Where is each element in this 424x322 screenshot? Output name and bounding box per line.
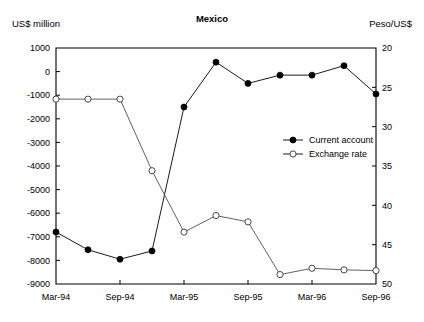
data-point	[373, 268, 379, 274]
legend-label-0: Current account	[309, 135, 374, 145]
left-tick-label: 1000	[30, 43, 50, 53]
chart-svg: US$ million Peso/US$ Mexico 10000-1000-2…	[0, 0, 424, 322]
left-tick-label: 0	[45, 67, 50, 77]
data-point	[373, 91, 379, 97]
left-tick-label: -2000	[27, 114, 50, 124]
left-tick-label: -6000	[27, 208, 50, 218]
x-tick-label: Sep-95	[233, 292, 262, 302]
data-point	[213, 212, 219, 218]
data-point	[181, 229, 187, 235]
chart-legend: Current accountExchange rate	[283, 135, 374, 159]
data-point	[53, 96, 59, 102]
left-tick-label: -7000	[27, 232, 50, 242]
x-tick-label: Sep-94	[105, 292, 134, 302]
left-tick-label: -5000	[27, 185, 50, 195]
legend-marker-1	[290, 151, 296, 157]
data-point	[149, 248, 155, 254]
right-tick-label: 50	[382, 279, 392, 289]
data-point	[245, 219, 251, 225]
x-axis-ticks: Mar-94Sep-94Mar-95Sep-95Mar-96Sep-96	[42, 280, 391, 302]
chart-title: Mexico	[196, 13, 228, 24]
data-point	[341, 63, 347, 69]
right-tick-label: 35	[382, 161, 392, 171]
series-layer	[53, 59, 379, 278]
series-line-0	[56, 62, 376, 259]
legend-marker-0	[290, 137, 296, 143]
x-tick-label: Mar-95	[170, 292, 199, 302]
data-point	[149, 168, 155, 174]
data-point	[245, 80, 251, 86]
right-tick-label: 20	[382, 43, 392, 53]
legend-label-1: Exchange rate	[309, 149, 367, 159]
data-point	[277, 72, 283, 78]
right-tick-label: 45	[382, 240, 392, 250]
chart-container: US$ million Peso/US$ Mexico 10000-1000-2…	[0, 0, 424, 322]
data-point	[277, 271, 283, 277]
left-axis-ticks: 10000-1000-2000-3000-4000-5000-6000-7000…	[27, 43, 60, 289]
right-axis-ticks: 20253035404550	[372, 43, 392, 289]
x-tick-label: Mar-96	[298, 292, 327, 302]
data-point	[341, 267, 347, 273]
left-tick-label: -3000	[27, 138, 50, 148]
data-point	[85, 247, 91, 253]
right-axis-label: Peso/US$	[369, 18, 412, 29]
left-axis-label: US$ million	[12, 18, 60, 29]
data-point	[117, 256, 123, 262]
data-point	[117, 96, 123, 102]
x-tick-label: Sep-96	[361, 292, 390, 302]
data-point	[309, 72, 315, 78]
data-point	[213, 59, 219, 65]
data-point	[53, 229, 59, 235]
right-tick-label: 40	[382, 201, 392, 211]
plot-border	[56, 48, 376, 284]
data-point	[309, 265, 315, 271]
series-line-1	[56, 99, 376, 274]
plot-frame	[56, 48, 376, 284]
left-tick-label: -1000	[27, 90, 50, 100]
data-point	[85, 96, 91, 102]
left-tick-label: -4000	[27, 161, 50, 171]
x-tick-label: Mar-94	[42, 292, 71, 302]
left-tick-label: -9000	[27, 279, 50, 289]
data-point	[181, 104, 187, 110]
right-tick-label: 30	[382, 122, 392, 132]
right-tick-label: 25	[382, 83, 392, 93]
left-tick-label: -8000	[27, 256, 50, 266]
